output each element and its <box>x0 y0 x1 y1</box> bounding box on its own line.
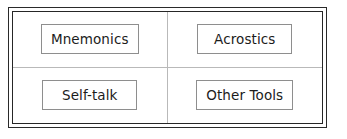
label-box-self-talk[interactable]: Self-talk <box>42 80 137 110</box>
quadrant-bottom-right: Other Tools <box>168 68 323 124</box>
quadrant-top-right: Acrostics <box>168 12 323 68</box>
diagram-container: Mnemonics Acrostics Self-talk Other Tool… <box>0 0 347 139</box>
label-text-self-talk: Self-talk <box>62 89 118 103</box>
label-box-other-tools[interactable]: Other Tools <box>196 80 293 110</box>
quadrant-grid: Mnemonics Acrostics Self-talk Other Tool… <box>13 12 322 123</box>
label-box-mnemonics[interactable]: Mnemonics <box>41 24 139 54</box>
label-text-other-tools: Other Tools <box>206 89 283 103</box>
quadrant-top-left: Mnemonics <box>13 12 168 68</box>
quadrant-bottom-left: Self-talk <box>13 68 168 124</box>
inner-frame-border: Mnemonics Acrostics Self-talk Other Tool… <box>12 11 323 124</box>
outer-frame-border: Mnemonics Acrostics Self-talk Other Tool… <box>8 7 327 128</box>
label-box-acrostics[interactable]: Acrostics <box>197 24 292 54</box>
label-text-acrostics: Acrostics <box>214 33 275 47</box>
label-text-mnemonics: Mnemonics <box>51 33 129 47</box>
